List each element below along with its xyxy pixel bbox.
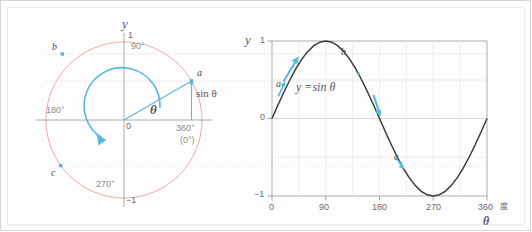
chart-point-label-b: b bbox=[341, 47, 346, 57]
chart-ytick-0: 0 bbox=[260, 113, 265, 122]
radius-line-a bbox=[124, 81, 192, 120]
chart-x-ticks bbox=[272, 196, 487, 201]
circle-tick-360deg: 360° bbox=[176, 124, 195, 133]
chart-equation-label: y =sin θ bbox=[296, 81, 335, 93]
circle-point-label-a: a bbox=[197, 68, 202, 78]
chart-xtick-90: 90 bbox=[319, 203, 329, 212]
circle-point-label-b: b bbox=[52, 42, 57, 52]
unit-circle-graphic bbox=[0, 0, 532, 232]
chart-point-b bbox=[357, 73, 360, 76]
chart-ytick-neg1: −1 bbox=[254, 190, 264, 199]
circle-y-axis-label: y bbox=[122, 17, 128, 30]
chart-point-label-a: a bbox=[276, 79, 281, 89]
chart-x-unit-label: 度 bbox=[500, 203, 508, 211]
circle-point-label-c: c bbox=[51, 168, 55, 178]
chart-point-c bbox=[399, 162, 402, 165]
circle-point-c bbox=[59, 164, 62, 167]
theta-arc bbox=[84, 68, 160, 138]
chart-xtick-0: 0 bbox=[269, 203, 274, 212]
circle-origin-label: 0 bbox=[126, 122, 131, 131]
circle-tick-270deg: 270° bbox=[96, 180, 115, 189]
circle-tick-180deg: 180° bbox=[46, 106, 65, 115]
circle-tick-0deg: (0°) bbox=[180, 136, 195, 145]
sin-theta-label: sin θ bbox=[196, 88, 217, 99]
chart-y-axis-label: y bbox=[245, 33, 251, 46]
circle-theta-label: θ bbox=[150, 103, 157, 116]
chart-y-ticks bbox=[268, 41, 273, 196]
circle-bottom-value: −1 bbox=[126, 196, 136, 205]
circle-point-a bbox=[190, 79, 193, 82]
circle-top-value: 1 bbox=[128, 31, 133, 40]
circle-point-b bbox=[61, 52, 64, 55]
chart-xtick-180: 180 bbox=[372, 203, 387, 212]
circle-tick-90deg: 90° bbox=[131, 42, 145, 51]
theta-arc-arrowhead bbox=[97, 135, 107, 146]
chart-x-axis-label: θ bbox=[483, 215, 489, 227]
chart-xtick-270: 270 bbox=[426, 203, 441, 212]
sine-function-figure: y 1 −1 90° 180° 270° 360° (0°) 0 θ sin θ… bbox=[0, 0, 532, 232]
chart-ytick-1: 1 bbox=[260, 36, 265, 45]
chart-xtick-360: 360 bbox=[478, 203, 493, 212]
chart-point-label-c: c bbox=[394, 152, 398, 162]
